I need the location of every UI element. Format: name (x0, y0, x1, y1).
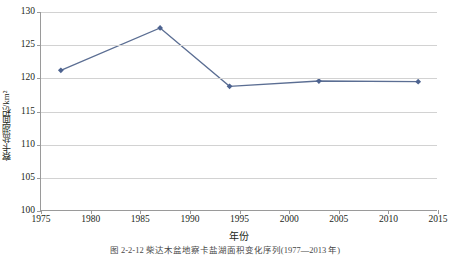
gridline-y (41, 112, 437, 113)
y-axis-tick-label: 130 (21, 7, 35, 17)
y-axis-title: 察卡盐湖面积/km² (1, 90, 15, 161)
x-axis-tick-label: 1975 (32, 215, 51, 225)
x-axis-tick-label: 2010 (379, 215, 398, 225)
plot-area: 1001051101151201251301975198019851990199… (40, 12, 437, 211)
gridline-y (41, 12, 437, 13)
gridline-y (41, 178, 437, 179)
gridline-y (41, 78, 437, 79)
x-axis-tick-label: 1995 (230, 215, 249, 225)
x-axis-title: 年份 (40, 228, 437, 243)
y-axis-tick (37, 178, 41, 179)
x-axis-tick-label: 2015 (429, 215, 448, 225)
y-axis-tick-label: 125 (21, 40, 35, 50)
y-axis-tick (37, 12, 41, 13)
y-axis-tick-label: 120 (21, 74, 35, 84)
data-point-marker (58, 67, 64, 73)
x-axis-tick-label: 1980 (81, 215, 100, 225)
gridline-y (41, 145, 437, 146)
x-axis-tick-label: 1990 (180, 215, 199, 225)
y-axis-tick (37, 112, 41, 113)
y-axis-tick-label: 110 (21, 140, 35, 150)
figure-caption: 图 2-2-12 柴达木盆地察卡盐湖面积变化序列(1977—2013 年) (0, 243, 450, 255)
data-point-marker (415, 79, 421, 85)
y-axis-tick-label: 115 (21, 107, 35, 117)
y-axis-tick-label: 105 (21, 173, 35, 183)
x-axis-tick-label: 2000 (280, 215, 299, 225)
gridline-y (41, 45, 437, 46)
x-axis-tick-label: 1985 (131, 215, 150, 225)
y-axis-tick (37, 45, 41, 46)
y-axis-tick (37, 78, 41, 79)
y-axis-tick (37, 145, 41, 146)
x-axis-tick-label: 2005 (329, 215, 348, 225)
